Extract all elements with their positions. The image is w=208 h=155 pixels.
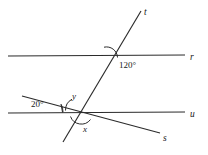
geometry-figure: r u t s 120° y x 20° xyxy=(0,0,208,155)
angle-label-y: y xyxy=(71,91,76,101)
geometry-canvas: r u t s 120° y x 20° xyxy=(0,0,208,155)
angle-label-120: 120° xyxy=(119,60,137,70)
line-r xyxy=(8,55,185,56)
lines-group xyxy=(8,11,185,142)
angle-label-20: 20° xyxy=(31,99,44,109)
line-u xyxy=(8,112,185,113)
line-label-t: t xyxy=(144,7,147,17)
line-label-r: r xyxy=(190,52,194,62)
angle-arc-x xyxy=(71,117,91,125)
line-label-s: s xyxy=(163,133,167,143)
angle-label-x: x xyxy=(82,124,87,134)
line-labels-group: r u t s xyxy=(144,7,195,143)
line-label-u: u xyxy=(190,109,195,119)
